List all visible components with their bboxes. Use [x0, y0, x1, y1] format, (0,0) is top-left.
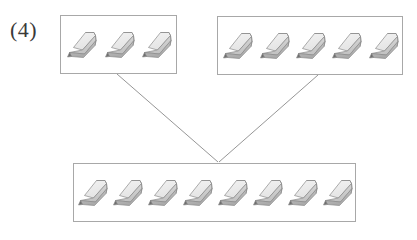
- figure-canvas: (4): [0, 0, 417, 240]
- whole-group-box: [73, 163, 356, 222]
- pencil-icon: [75, 174, 109, 212]
- part-group-1-items: [61, 16, 176, 73]
- pencil-icon: [320, 174, 354, 212]
- pencil-icon: [250, 174, 284, 212]
- part-group-2-items: [218, 17, 402, 74]
- part-group-1-box: [60, 15, 177, 74]
- pencil-icon: [64, 26, 98, 64]
- figure-label: (4): [10, 19, 37, 41]
- pencil-icon: [139, 26, 173, 64]
- pencil-icon: [220, 27, 254, 65]
- pencil-icon: [293, 27, 327, 65]
- pencil-icon: [180, 174, 214, 212]
- pencil-icon: [366, 27, 400, 65]
- part-group-2-box: [217, 16, 403, 75]
- whole-group-items: [74, 164, 355, 221]
- pencil-icon: [329, 27, 363, 65]
- pencil-icon: [285, 174, 319, 212]
- connector-right-line: [219, 75, 318, 162]
- pencil-icon: [145, 174, 179, 212]
- pencil-icon: [257, 27, 291, 65]
- pencil-icon: [215, 174, 249, 212]
- pencil-icon: [110, 174, 144, 212]
- pencil-icon: [102, 26, 136, 64]
- connector-left-line: [117, 74, 218, 162]
